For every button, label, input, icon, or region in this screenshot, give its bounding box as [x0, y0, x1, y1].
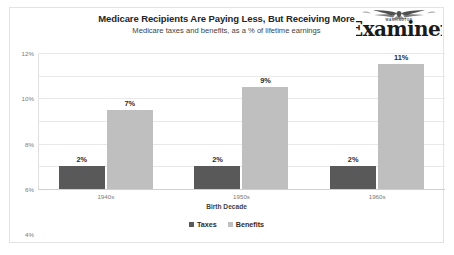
bar-value-label: 2% [76, 155, 87, 164]
y-axis-tick-label: 6% [25, 186, 34, 193]
bar-taxes-1950s[interactable]: 2% [194, 166, 240, 189]
bar-group: 2%9% [174, 53, 310, 189]
bar-benefits-1960s[interactable]: 11% [378, 64, 424, 189]
masthead-name: Examiner [356, 19, 442, 40]
x-axis-tick-label: 1940s [97, 193, 114, 200]
bar-value-label: 2% [348, 155, 359, 164]
bar-taxes-1960s[interactable]: 2% [330, 166, 376, 189]
bar-value-label: 11% [394, 53, 408, 62]
x-axis-tick-label: 1950s [233, 193, 250, 200]
chart-container: Medicare Recipients Are Paying Less, But… [9, 7, 444, 243]
publisher-logo: WASHINGTON Examiner [356, 8, 442, 42]
plot-area: 0%2%4%6%8%10%12% 2%7%2%9%2%11% [38, 53, 445, 189]
x-axis-title: Birth Decade [10, 203, 443, 210]
legend-label: Benefits [236, 220, 264, 229]
chart-legend: TaxesBenefits [10, 220, 443, 229]
legend-swatch [189, 222, 194, 227]
bar-value-label: 9% [260, 76, 271, 85]
bar-value-label: 7% [124, 99, 135, 108]
y-axis-tick-label: 8% [25, 140, 34, 147]
legend-label: Taxes [197, 220, 217, 229]
bar-benefits-1950s[interactable]: 9% [242, 87, 288, 189]
bar-group: 2%7% [38, 53, 174, 189]
x-axis-tick-label: 1960s [369, 193, 386, 200]
legend-item-benefits[interactable]: Benefits [228, 220, 264, 229]
y-axis-tick-label: 10% [22, 95, 34, 102]
bar-benefits-1940s[interactable]: 7% [107, 110, 153, 189]
legend-swatch [228, 222, 233, 227]
bar-taxes-1940s[interactable]: 2% [59, 166, 105, 189]
bar-value-label: 2% [212, 155, 223, 164]
x-axis-line [38, 189, 445, 190]
legend-item-taxes[interactable]: Taxes [189, 220, 217, 229]
y-axis-tick-label: 4% [25, 231, 34, 238]
y-axis-tick-label: 12% [22, 50, 34, 57]
bar-group: 2%11% [309, 53, 445, 189]
